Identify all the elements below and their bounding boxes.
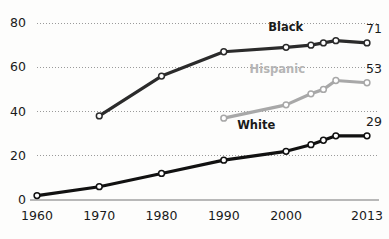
data-point-black-2004: [308, 42, 314, 48]
end-value-label-white: 29: [366, 114, 382, 129]
data-point-hispanic-2004: [308, 91, 314, 97]
x-tick-label-2013: 2013: [337, 208, 389, 223]
series-label-hispanic: Hispanic: [250, 62, 305, 76]
end-value-label-black: 71: [366, 21, 382, 36]
data-point-white-2000: [283, 148, 289, 154]
end-value-label-hispanic: 53: [366, 61, 382, 76]
data-point-black-1990: [221, 49, 227, 55]
data-point-white-2006: [321, 137, 327, 143]
series-label-white: White: [237, 118, 275, 132]
series-lines: [37, 41, 367, 196]
data-point-black-1980: [159, 73, 165, 79]
data-point-black-1970: [96, 113, 102, 119]
y-tick-label-0: 0: [0, 192, 26, 207]
data-point-white-2013: [364, 133, 370, 139]
data-point-hispanic-2006: [321, 86, 327, 92]
series-line-black: [99, 41, 367, 116]
x-tick-label-1960: 1960: [7, 208, 67, 223]
data-point-white-2008: [333, 133, 339, 139]
data-point-hispanic-1990: [221, 115, 227, 121]
x-tick-label-1990: 1990: [194, 208, 254, 223]
x-tick-label-2000: 2000: [256, 208, 316, 223]
x-tick-label-1980: 1980: [132, 208, 192, 223]
series-line-white: [37, 136, 367, 196]
y-tick-label-60: 60: [0, 59, 26, 74]
y-tick-label-80: 80: [0, 15, 26, 30]
chart-plot-area: [0, 0, 389, 239]
series-label-black: Black: [268, 20, 303, 34]
data-point-black-2008: [333, 38, 339, 44]
data-point-white-1960: [34, 193, 40, 199]
data-point-white-1990: [221, 157, 227, 163]
data-point-black-2000: [283, 44, 289, 50]
data-point-black-2006: [321, 40, 327, 46]
data-point-black-2013: [364, 40, 370, 46]
data-point-hispanic-2013: [364, 80, 370, 86]
x-tick-label-1970: 1970: [69, 208, 129, 223]
data-point-hispanic-2008: [333, 78, 339, 84]
y-tick-label-40: 40: [0, 104, 26, 119]
data-point-hispanic-2000: [283, 102, 289, 108]
series-line-hispanic: [224, 81, 367, 119]
y-tick-label-20: 20: [0, 148, 26, 163]
data-point-white-1970: [96, 184, 102, 190]
data-point-white-2004: [308, 142, 314, 148]
line-chart: 020406080 196019701980199020002013 Black…: [0, 0, 389, 239]
data-point-white-1980: [159, 171, 165, 177]
